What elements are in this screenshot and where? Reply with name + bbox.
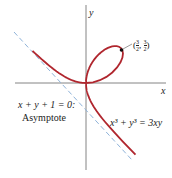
point-leader-line — [123, 44, 132, 49]
folium-diagram — [0, 0, 172, 178]
asymptote-label: Asymptote — [22, 113, 66, 123]
y-axis-label: y — [89, 8, 93, 18]
asymptote-equation: x + y + 1 = 0: — [18, 100, 75, 110]
x-axis-label: x — [161, 86, 165, 96]
curve-equation: x³ + y³ = 3xy — [110, 118, 162, 128]
point-marker — [120, 48, 124, 52]
point-label: (32, 32) — [133, 39, 150, 52]
asymptote-line — [14, 32, 132, 160]
